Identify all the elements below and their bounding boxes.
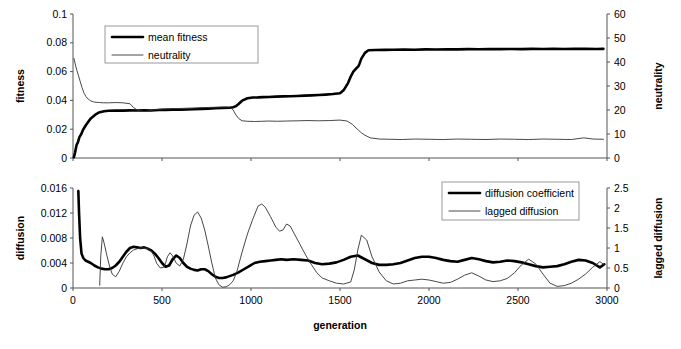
legend-label-top-0: mean fitness bbox=[148, 31, 208, 43]
y-tick-label-top-3: 0.06 bbox=[47, 65, 68, 77]
y2-axis-title-bottom: lagged diffusion bbox=[652, 197, 664, 278]
x-tick-label-bottom-3: 1500 bbox=[328, 294, 352, 306]
y-tick-label-bottom-2: 0.008 bbox=[41, 232, 67, 244]
y-tick-label-top-4: 0.08 bbox=[47, 36, 68, 48]
series-line-top-1 bbox=[74, 58, 604, 139]
y2-tick-label-bottom-1: 0.5 bbox=[614, 262, 629, 274]
y-tick-label-bottom-4: 0.016 bbox=[41, 182, 67, 194]
x-tick-label-bottom-2: 1000 bbox=[239, 294, 263, 306]
y2-tick-label-top-0: 0 bbox=[614, 152, 620, 164]
y2-tick-label-bottom-2: 1 bbox=[614, 242, 620, 254]
y-axis-title-bottom: diffusion bbox=[14, 216, 26, 260]
y-tick-label-bottom-3: 0.012 bbox=[41, 207, 67, 219]
y-tick-label-top-5: 0.1 bbox=[52, 8, 67, 20]
legend-label-bottom-1: lagged diffusion bbox=[485, 205, 559, 217]
y2-tick-label-bottom-3: 1.5 bbox=[614, 222, 629, 234]
x-axis-title-bottom: generation bbox=[313, 319, 367, 331]
y2-tick-label-top-4: 40 bbox=[614, 56, 626, 68]
y2-tick-label-bottom-0: 0 bbox=[614, 282, 620, 294]
y-tick-label-top-0: 0 bbox=[61, 152, 67, 164]
y2-tick-label-top-1: 10 bbox=[614, 128, 626, 140]
x-tick-label-bottom-0: 0 bbox=[70, 294, 76, 306]
y2-tick-label-top-3: 30 bbox=[614, 80, 626, 92]
legend-bottom: diffusion coefficientlagged diffusion bbox=[442, 182, 579, 220]
y2-axis-title-top: neutrality bbox=[652, 62, 664, 109]
y-tick-label-bottom-1: 0.004 bbox=[41, 257, 67, 269]
legend-label-bottom-0: diffusion coefficient bbox=[485, 187, 574, 199]
dual-panel-line-chart: 00.020.040.060.080.10102030405060fitness… bbox=[0, 0, 681, 349]
y-tick-label-bottom-0: 0 bbox=[61, 282, 67, 294]
figure-container: 00.020.040.060.080.10102030405060fitness… bbox=[0, 0, 681, 349]
y2-tick-label-top-5: 50 bbox=[614, 32, 626, 44]
chart-panel-bottom: 00.0040.0080.0120.01600.511.522.50500100… bbox=[14, 182, 664, 332]
x-tick-label-bottom-5: 2500 bbox=[506, 294, 530, 306]
y2-tick-label-top-6: 60 bbox=[614, 8, 626, 20]
x-tick-label-bottom-6: 3000 bbox=[595, 294, 619, 306]
y-tick-label-top-2: 0.04 bbox=[47, 94, 68, 106]
y2-tick-label-bottom-4: 2 bbox=[614, 202, 620, 214]
x-tick-label-bottom-1: 500 bbox=[153, 294, 171, 306]
y-axis-title-top: fitness bbox=[14, 69, 26, 103]
y-tick-label-top-1: 0.02 bbox=[47, 123, 68, 135]
y2-tick-label-top-2: 20 bbox=[614, 104, 626, 116]
series-line-top-0 bbox=[74, 49, 604, 158]
y2-tick-label-bottom-5: 2.5 bbox=[614, 182, 629, 194]
legend-top: mean fitnessneutrality bbox=[105, 26, 258, 63]
x-tick-label-bottom-4: 2000 bbox=[417, 294, 441, 306]
legend-label-top-1: neutrality bbox=[148, 49, 191, 61]
chart-panel-top: 00.020.040.060.080.10102030405060fitness… bbox=[14, 8, 664, 164]
